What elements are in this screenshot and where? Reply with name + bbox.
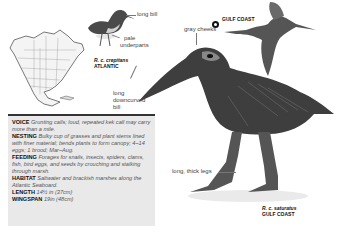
- range-map: [4, 28, 90, 108]
- fact-wingspan: WINGSPAN 19in (48cm): [12, 196, 151, 203]
- label-downcurved-1: long: [113, 90, 124, 97]
- gulf-region-bottom: GULF COAST: [262, 211, 295, 217]
- label-gray-cheeks: gray cheeks: [184, 26, 216, 33]
- fact-feeding: FEEDING Forages for snails, insects, spi…: [12, 154, 151, 175]
- fact-nesting: NESTING Bulky cup of grasses and plant s…: [12, 133, 151, 154]
- species-facts-panel: VOICE Grunting calls; loud, repeated kek…: [8, 114, 155, 226]
- atlantic-region: ATLANTIC: [94, 63, 119, 69]
- fact-habitat: HABITAT Saltwater and brackish marshes a…: [12, 175, 151, 189]
- label-downcurved-2: downcurved: [113, 97, 145, 104]
- label-long-bill: long bill: [137, 11, 157, 18]
- label-thick-legs: long, thick legs: [172, 168, 212, 175]
- gulf-coast-bird-illustration: [128, 36, 337, 206]
- fact-voice: VOICE Grunting calls; loud, repeated kek…: [12, 119, 151, 133]
- north-america-map-icon: [4, 28, 90, 108]
- fact-length: LENGTH 14½ in (37cm): [12, 189, 151, 196]
- label-downcurved-3: bill: [113, 104, 120, 111]
